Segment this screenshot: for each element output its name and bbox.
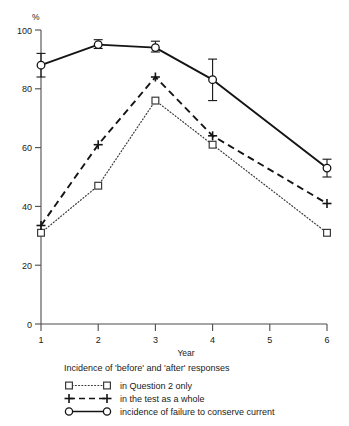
- data-point-circle-year2: [94, 41, 102, 49]
- legend-title: Incidence of 'before' and 'after' respon…: [64, 363, 230, 373]
- data-point-circle-year4: [209, 76, 217, 84]
- data-point-square-year3: [152, 97, 159, 104]
- legend-plus-icon-left: [65, 394, 74, 403]
- data-point-square-year1: [38, 229, 45, 236]
- legend-square-icon-left: [66, 382, 73, 389]
- x-tick-label-2: 2: [96, 335, 101, 345]
- series-failure-to-conserve-current: [37, 40, 332, 177]
- series-line-solid: [41, 45, 327, 169]
- x-tick-label-1: 1: [38, 335, 43, 345]
- series-line-dashed: [41, 77, 327, 226]
- y-axis-ticks: [35, 30, 41, 324]
- legend-entry-test-as-a-whole[interactable]: in the test as a whole: [65, 394, 205, 404]
- y-tick-label-80: 80: [22, 84, 32, 94]
- y-axis-unit-label: %: [32, 12, 40, 22]
- x-tick-label-6: 6: [324, 335, 329, 345]
- x-tick-label-3: 3: [153, 335, 158, 345]
- x-tick-label-4: 4: [210, 335, 215, 345]
- data-point-plus-year3: [151, 73, 160, 82]
- x-axis-title: Year: [177, 348, 194, 358]
- series-test-as-a-whole: [37, 73, 332, 231]
- y-axis-tick-labels: 100 80 60 40 20 0: [17, 26, 32, 330]
- x-axis-ticks: [41, 324, 327, 331]
- data-point-square-year4: [209, 141, 216, 148]
- data-point-square-year6: [324, 229, 331, 236]
- legend-label-failure-to-conserve-current: incidence of failure to conserve current: [120, 407, 275, 417]
- y-tick-label-20: 20: [22, 261, 32, 271]
- line-chart-canvas: % 100 80 60 40 20 0: [0, 0, 349, 426]
- legend-entry-failure-to-conserve-current[interactable]: incidence of failure to conserve current: [65, 407, 275, 417]
- data-point-circle-year1: [37, 61, 45, 69]
- y-tick-label-40: 40: [22, 202, 32, 212]
- series-line-dotted: [41, 101, 327, 233]
- legend-circle-icon-right: [103, 408, 110, 415]
- chart-legend: Incidence of 'before' and 'after' respon…: [64, 363, 275, 417]
- legend-entry-question-2-only[interactable]: in Question 2 only: [66, 381, 193, 391]
- y-tick-label-0: 0: [27, 320, 32, 330]
- legend-circle-icon-left: [65, 408, 72, 415]
- legend-label-question-2-only: in Question 2 only: [120, 381, 193, 391]
- y-tick-label-60: 60: [22, 143, 32, 153]
- x-tick-label-5: 5: [267, 335, 272, 345]
- legend-square-icon-right: [104, 382, 111, 389]
- y-tick-label-100: 100: [17, 26, 32, 36]
- legend-plus-icon-right: [103, 394, 112, 403]
- legend-label-test-as-a-whole: in the test as a whole: [120, 394, 205, 404]
- data-point-plus-year6: [323, 199, 332, 208]
- data-point-circle-year3: [152, 44, 160, 52]
- data-point-square-year2: [95, 182, 102, 189]
- chart-figure: % 100 80 60 40 20 0: [0, 0, 349, 426]
- data-point-circle-year6: [323, 164, 331, 172]
- x-axis-tick-labels: 1 2 3 4 5 6: [38, 335, 329, 345]
